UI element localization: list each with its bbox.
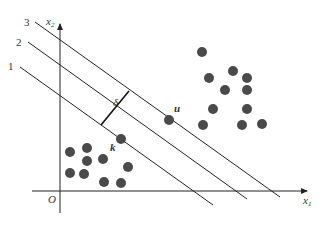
class-lower-left xyxy=(65,134,133,188)
k-label: k xyxy=(110,141,116,153)
data-point xyxy=(237,120,247,130)
margin-label: δ xyxy=(113,96,119,108)
data-point xyxy=(242,85,252,95)
data-point xyxy=(98,154,108,164)
origin-label: O xyxy=(48,193,56,205)
data-point xyxy=(123,162,133,172)
data-point xyxy=(204,73,214,83)
svm-diagram: x1 x2 O 1 2 3 δ u k xyxy=(0,0,323,226)
line-2-label: 2 xyxy=(16,36,22,48)
data-point xyxy=(99,177,109,187)
line-1-label: 1 xyxy=(8,60,14,72)
data-point xyxy=(79,169,89,179)
data-point xyxy=(242,104,252,114)
data-point xyxy=(65,147,75,157)
data-point xyxy=(65,168,75,178)
support-point-k xyxy=(116,134,126,144)
line-2 xyxy=(28,42,247,199)
data-point xyxy=(116,178,126,188)
data-point xyxy=(220,85,230,95)
u-label: u xyxy=(174,102,180,114)
x-axis-label: x1 xyxy=(302,194,311,208)
data-point xyxy=(242,73,252,83)
data-point xyxy=(257,119,267,129)
data-point xyxy=(82,143,92,153)
y-axis-label: x2 xyxy=(45,15,55,29)
data-point xyxy=(82,156,92,166)
data-point xyxy=(208,104,218,114)
data-point xyxy=(197,47,207,57)
data-point xyxy=(198,120,208,130)
line-3-label: 3 xyxy=(24,16,30,28)
class-upper-right xyxy=(164,47,267,130)
support-point-u xyxy=(164,115,174,125)
data-point xyxy=(228,66,238,76)
